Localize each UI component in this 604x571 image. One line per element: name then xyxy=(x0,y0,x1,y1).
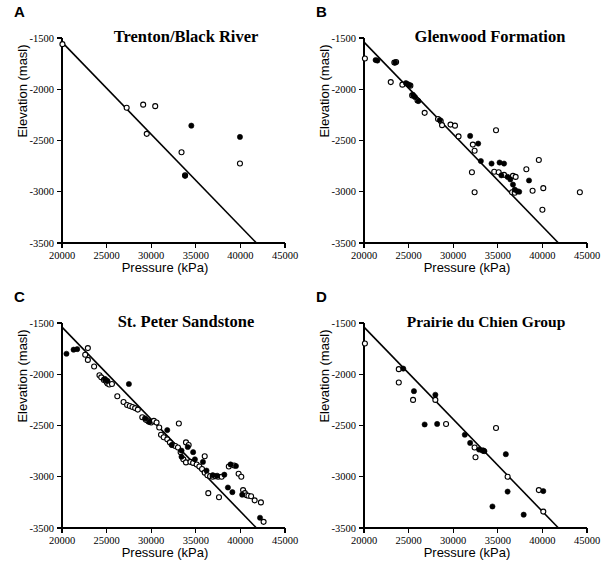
data-point-filled xyxy=(393,60,398,65)
x-tick-label: 45000 xyxy=(574,250,600,261)
y-axis-label-c: Elevation (masl) xyxy=(16,306,30,446)
data-point-open xyxy=(144,131,149,136)
data-point-filled xyxy=(75,347,80,352)
data-point-open xyxy=(115,394,120,399)
y-tick-label: -2000 xyxy=(332,369,357,380)
data-point-filled xyxy=(230,490,235,495)
regression-trend-line xyxy=(364,327,558,528)
panel-c: C St. Peter Sandstone -1500-2000-2500-30… xyxy=(0,285,302,570)
data-point-open xyxy=(237,161,242,166)
x-tick-label: 20000 xyxy=(351,535,377,546)
data-point-open xyxy=(411,397,416,402)
data-point-open xyxy=(92,364,97,369)
data-point-open xyxy=(472,190,477,195)
x-tick-label: 20000 xyxy=(351,250,377,261)
y-tick-label: -2000 xyxy=(30,369,55,380)
data-point-open xyxy=(540,207,545,212)
data-point-filled xyxy=(142,416,147,421)
data-point-filled xyxy=(476,141,481,146)
y-tick-label: -2000 xyxy=(30,84,55,95)
data-point-filled xyxy=(233,463,238,468)
data-point-open xyxy=(396,380,401,385)
y-tick-label: -3000 xyxy=(332,186,357,197)
data-point-open xyxy=(470,142,475,147)
data-point-filled xyxy=(510,182,515,187)
data-point-open xyxy=(440,123,445,128)
data-point-filled xyxy=(185,444,190,449)
y-tick-label: -2500 xyxy=(332,420,357,431)
data-point-filled xyxy=(191,450,196,455)
data-point-filled xyxy=(228,462,233,467)
data-point-open xyxy=(216,495,221,500)
y-tick-label: -3000 xyxy=(30,471,55,482)
x-tick-label: 25000 xyxy=(395,250,421,261)
data-point-filled xyxy=(189,123,194,128)
data-point-filled xyxy=(505,489,510,494)
x-tick-label: 25000 xyxy=(93,535,119,546)
data-point-open xyxy=(85,357,90,362)
x-tick-label: 45000 xyxy=(574,535,600,546)
data-point-open xyxy=(258,500,263,505)
data-point-open xyxy=(109,381,114,386)
plot-area-c: -1500-2000-2500-3000-3500200002500030000… xyxy=(0,285,302,570)
y-tick-label: -3500 xyxy=(332,238,357,249)
data-point-filled xyxy=(517,189,522,194)
data-point-filled xyxy=(375,58,380,63)
x-tick-label: 25000 xyxy=(93,250,119,261)
data-point-open xyxy=(422,110,427,115)
x-tick-label: 40000 xyxy=(227,535,253,546)
y-tick-label: -3000 xyxy=(30,186,55,197)
data-point-filled xyxy=(499,173,504,178)
data-point-filled xyxy=(192,457,197,462)
y-tick-label: -3000 xyxy=(332,471,357,482)
data-point-filled xyxy=(468,133,473,138)
data-point-open xyxy=(239,474,244,479)
x-axis-label-a: Pressure (kPa) xyxy=(40,261,290,275)
data-point-open xyxy=(362,341,367,346)
data-point-open xyxy=(141,102,146,107)
plot-area-a: -1500-2000-2500-3000-3500200002500030000… xyxy=(0,0,302,285)
y-tick-label: -3500 xyxy=(30,238,55,249)
x-tick-label: 40000 xyxy=(227,250,253,261)
x-axis-label-b: Pressure (kPa) xyxy=(342,261,592,275)
data-point-filled xyxy=(541,489,546,494)
data-point-filled xyxy=(437,117,442,122)
data-point-open xyxy=(452,123,457,128)
data-point-open xyxy=(154,420,159,425)
x-tick-label: 45000 xyxy=(272,535,298,546)
data-point-filled xyxy=(526,178,531,183)
data-point-filled xyxy=(407,83,412,88)
data-point-open xyxy=(83,352,88,357)
scatter-figure-grid: A Trenton/Black River -1500-2000-2500-30… xyxy=(0,0,604,571)
data-point-filled xyxy=(422,422,427,427)
data-point-open xyxy=(252,498,257,503)
data-point-filled xyxy=(147,419,152,424)
x-tick-label: 20000 xyxy=(49,250,75,261)
regression-trend-line xyxy=(62,42,256,243)
y-tick-label: -2500 xyxy=(332,135,357,146)
y-axis-label-a: Elevation (masl) xyxy=(16,21,30,161)
data-point-filled xyxy=(237,134,242,139)
x-tick-label: 40000 xyxy=(529,250,555,261)
data-point-open xyxy=(362,56,367,61)
data-point-filled xyxy=(490,504,495,509)
data-point-open xyxy=(179,150,184,155)
data-point-open xyxy=(433,397,438,402)
data-point-open xyxy=(541,509,546,514)
data-point-open xyxy=(261,519,266,524)
panel-d: D Prairie du Chien Group -1500-2000-2500… xyxy=(302,285,604,570)
data-point-open xyxy=(456,134,461,139)
data-point-filled xyxy=(257,515,262,520)
data-point-filled xyxy=(179,454,184,459)
data-point-open xyxy=(202,454,207,459)
data-point-open xyxy=(473,455,478,460)
data-point-filled xyxy=(521,512,526,517)
x-tick-label: 45000 xyxy=(272,250,298,261)
data-point-filled xyxy=(240,492,245,497)
data-point-open xyxy=(469,170,474,175)
data-point-filled xyxy=(433,392,438,397)
y-tick-label: -2500 xyxy=(30,135,55,146)
data-point-open xyxy=(524,167,529,172)
data-point-open xyxy=(153,104,158,109)
data-point-open xyxy=(157,425,162,430)
